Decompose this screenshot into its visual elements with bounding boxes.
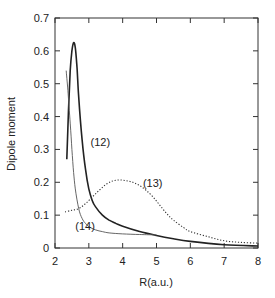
series-annotation: (13) [143, 177, 163, 189]
series-annotation: (12) [91, 136, 111, 148]
y-tick-label: 0 [43, 242, 49, 254]
x-axis-label: R(a.u.) [139, 276, 173, 288]
y-tick-label: 0.7 [34, 12, 49, 24]
y-tick-label: 0.1 [34, 209, 49, 221]
plot-frame [55, 18, 258, 248]
series-line-14 [66, 71, 156, 235]
y-tick-label: 0.5 [34, 78, 49, 90]
y-tick-label: 0.2 [34, 176, 49, 188]
plot-border [55, 18, 258, 248]
x-tick-label: 5 [153, 255, 159, 267]
y-tick-label: 0.4 [34, 111, 49, 123]
y-tick-label: 0.6 [34, 45, 49, 57]
x-tick-label: 8 [255, 255, 261, 267]
y-axis-label: Dipole moment [5, 97, 17, 171]
dipole-moment-chart: 234567800.10.20.30.40.50.60.7 (12)(13)(1… [0, 0, 275, 298]
x-tick-label: 2 [52, 255, 58, 267]
x-tick-label: 3 [86, 255, 92, 267]
series-annotation: (14) [75, 220, 95, 232]
x-tick-label: 7 [221, 255, 227, 267]
x-tick-label: 4 [120, 255, 126, 267]
series-line-13 [65, 180, 258, 243]
y-tick-label: 0.3 [34, 143, 49, 155]
x-tick-label: 6 [187, 255, 193, 267]
